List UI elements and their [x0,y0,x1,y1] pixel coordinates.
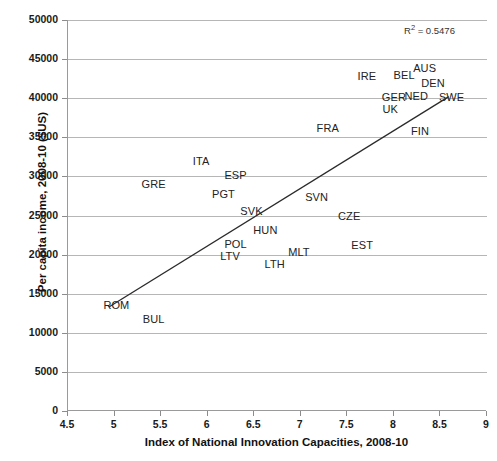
x-tick-mark [207,411,208,416]
gridline [68,176,487,177]
x-tick-mark [346,411,347,416]
y-tick-label: 45000 [29,52,58,64]
data-point-label: SVK [240,205,262,217]
data-point-label: ITA [193,155,210,167]
y-tick-label: 30000 [29,169,58,181]
y-tick-label: 20000 [29,248,58,260]
gridline [68,137,487,138]
data-point-label: GER [382,91,406,103]
data-point-label: SVN [305,191,328,203]
y-tick-label: 0 [52,404,58,416]
data-point-label: FIN [411,125,429,137]
gridline [68,59,487,60]
data-point-label: UK [382,103,397,115]
x-tick-mark [300,411,301,416]
x-tick-label: 6.5 [246,418,261,430]
x-axis-title: Index of National Innovation Capacities,… [67,436,486,448]
y-tick-label: 35000 [29,130,58,142]
data-point-label: GRE [142,178,166,190]
y-tick-label: 40000 [29,91,58,103]
x-tick-mark [486,411,487,416]
gridline [68,216,487,217]
x-tick-label: 7 [297,418,303,430]
data-point-label: HUN [253,224,277,236]
data-point-label: ROM [103,299,129,311]
x-tick-mark [160,411,161,416]
data-point-label: FRA [317,122,339,134]
data-point-label: NED [404,90,428,102]
data-point-label: ESP [224,169,246,181]
gridline [68,294,487,295]
gridline [68,372,487,373]
y-tick-label: 50000 [29,13,58,25]
gridline [68,255,487,256]
x-tick-mark [393,411,394,416]
data-point-label: PGT [212,188,235,200]
x-tick-label: 8.5 [432,418,447,430]
data-point-label: IRE [358,70,377,82]
y-tick-label: 10000 [29,326,58,338]
x-tick-label: 5.5 [153,418,168,430]
data-point-label: BEL [394,69,415,81]
data-point-label: DEN [421,77,445,89]
data-point-label: LTH [265,258,285,270]
gridline [68,20,487,21]
x-tick-label: 4.5 [60,418,75,430]
x-tick-mark [67,411,68,416]
data-point-label: LTV [220,250,240,262]
x-tick-mark [114,411,115,416]
data-point-label: CZE [338,210,360,222]
x-tick-mark [439,411,440,416]
data-point-label: MLT [288,246,309,258]
data-point-label: EST [351,239,373,251]
y-tick-label: 25000 [29,209,58,221]
y-tick-label: 15000 [29,287,58,299]
r-squared-annotation: R2 = 0.5476 [404,23,455,36]
data-point-label: SWE [439,91,464,103]
data-point-label: BUL [143,313,165,325]
x-tick-label: 5 [111,418,117,430]
scatter-chart: Per capita income, 2008-10 ($US) 0500010… [0,0,497,461]
x-tick-label: 8 [390,418,396,430]
plot-area: GREITAESPPGTSVKHUNPOLLTVLTHMLTSVNCZEESTR… [67,20,486,411]
data-point-label: AUS [413,62,436,74]
x-tick-label: 6 [204,418,210,430]
data-point-label: POL [224,238,246,250]
gridline [68,333,487,334]
x-tick-mark [253,411,254,416]
x-tick-label: 9 [483,418,489,430]
x-tick-label: 7.5 [339,418,354,430]
y-tick-label: 5000 [35,365,58,377]
